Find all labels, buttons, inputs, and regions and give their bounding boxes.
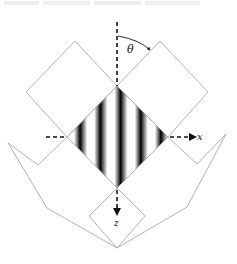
diagram: θ x z	[0, 0, 237, 264]
x-axis-label: x	[197, 131, 203, 142]
theta-label: θ	[127, 43, 134, 56]
z-axis-label: z	[113, 218, 119, 228]
theta-angle-arc	[118, 36, 150, 50]
